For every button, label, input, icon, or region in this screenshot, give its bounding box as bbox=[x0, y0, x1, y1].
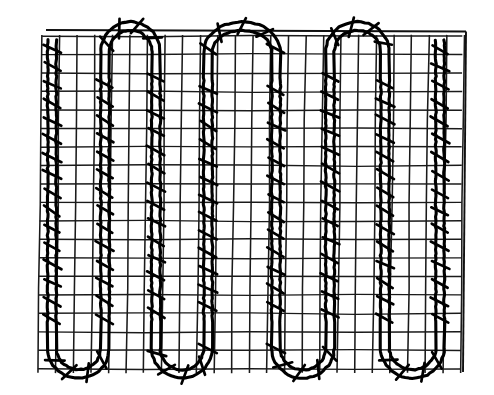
tie-wire-mark bbox=[45, 360, 65, 361]
tie-wire-mark bbox=[376, 134, 393, 142]
tie-wire-mark bbox=[421, 363, 424, 382]
serpentine-pipe-mesh-drawing bbox=[0, 0, 494, 395]
tie-wire-mark bbox=[376, 115, 395, 125]
mesh-vertical-wire bbox=[285, 35, 289, 373]
mesh-vertical-wire bbox=[126, 35, 130, 373]
mesh-vertical-wire bbox=[73, 35, 77, 373]
mesh-vertical-wire bbox=[425, 35, 429, 373]
tie-wire-mark bbox=[321, 181, 339, 191]
tie-wire-mark bbox=[321, 110, 339, 117]
tie-wire-mark bbox=[349, 18, 354, 37]
mesh-vertical-wire bbox=[143, 35, 147, 373]
tie-wire-mark bbox=[376, 152, 393, 162]
tie-wire-mark bbox=[267, 344, 285, 353]
tie-wire-mark bbox=[379, 360, 397, 361]
tie-wire-mark bbox=[119, 19, 120, 39]
serpentine-pipe bbox=[47, 21, 445, 378]
tie-wire-mark bbox=[182, 365, 189, 383]
tie-wire-mark bbox=[375, 42, 392, 45]
mesh-vertical-wire bbox=[302, 35, 306, 373]
mesh-vertical-wire bbox=[232, 35, 236, 373]
pipe-outer-wall bbox=[47, 30, 445, 378]
mesh-vertical-wire bbox=[91, 35, 95, 373]
mesh-vertical-wire bbox=[249, 35, 253, 373]
mesh-vertical-wire bbox=[337, 35, 341, 373]
tie-wire-mark bbox=[199, 230, 217, 239]
figure-root bbox=[0, 0, 494, 395]
tie-wire-mark bbox=[431, 298, 449, 307]
tie-wire-mark bbox=[376, 98, 395, 106]
tie-wire-mark bbox=[86, 363, 88, 381]
mesh-vertical-wire bbox=[355, 35, 359, 373]
tie-wire-mark bbox=[143, 37, 162, 38]
mesh-vertical-wire bbox=[38, 35, 42, 373]
mesh-horizontal-wire bbox=[41, 73, 462, 74]
mesh-vertical-wire bbox=[408, 35, 412, 373]
tie-wire-mark bbox=[199, 266, 217, 274]
tie-wire-mark bbox=[199, 285, 218, 293]
mesh-vertical-wire bbox=[320, 35, 324, 373]
mesh-vertical-wire bbox=[179, 35, 183, 373]
mesh-vertical-wire bbox=[372, 35, 376, 373]
